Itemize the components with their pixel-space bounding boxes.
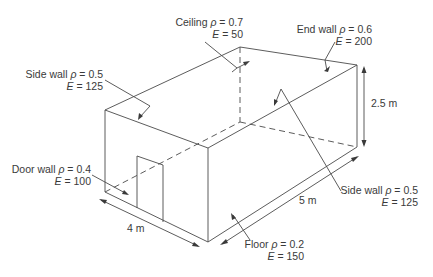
side-wall-right-name: Side wall: [340, 184, 382, 196]
floor-name: Floor: [245, 238, 269, 250]
room-diagram: Ceiling ρ = 0.7 E = 50 End wall ρ = 0.6 …: [0, 0, 433, 277]
e-symbol: E: [267, 250, 274, 262]
side-wall-right-label: Side wall ρ = 0.5 E = 125: [340, 184, 418, 208]
end-wall-e: 200: [354, 35, 372, 47]
e-symbol: E: [381, 196, 388, 208]
side-wall-left-name: Side wall: [25, 68, 67, 80]
e-symbol: E: [66, 80, 73, 92]
rho-symbol: ρ: [70, 68, 76, 80]
ceiling-label: Ceiling ρ = 0.7 E = 50: [140, 16, 243, 40]
side-wall-right-e: 125: [400, 196, 418, 208]
door-wall-rho: 0.4: [76, 163, 91, 175]
end-wall-label: End wall ρ = 0.6 E = 200: [290, 23, 372, 47]
ceiling-name: Ceiling: [175, 16, 207, 28]
ceiling-e: 50: [231, 28, 243, 40]
floor-label: Floor ρ = 0.2 E = 150: [240, 238, 304, 262]
height-dimension-label: 2.5 m: [371, 97, 397, 109]
rho-symbol: ρ: [58, 163, 64, 175]
end-wall-rho: 0.6: [357, 23, 372, 35]
rho-symbol: ρ: [271, 238, 277, 250]
side-wall-left-rho: 0.5: [88, 68, 103, 80]
e-symbol: E: [54, 175, 61, 187]
door-wall-label: Door wall ρ = 0.4 E = 100: [8, 163, 91, 187]
end-wall-name: End wall: [297, 23, 337, 35]
door-wall-e: 100: [73, 175, 91, 187]
floor-e: 150: [286, 250, 304, 262]
e-symbol: E: [212, 28, 219, 40]
floor-rho: 0.2: [289, 238, 304, 250]
length-dimension-label: 5 m: [299, 194, 317, 206]
width-dimension-label: 4 m: [127, 222, 145, 234]
side-wall-left-label: Side wall ρ = 0.5 E = 125: [20, 68, 103, 92]
side-wall-left-e: 125: [85, 80, 103, 92]
rho-symbol: ρ: [385, 184, 391, 196]
rho-symbol: ρ: [210, 16, 216, 28]
ceiling-rho: 0.7: [228, 16, 243, 28]
e-symbol: E: [335, 35, 342, 47]
door-wall-name: Door wall: [12, 163, 56, 175]
rho-symbol: ρ: [339, 23, 345, 35]
side-wall-right-rho: 0.5: [403, 184, 418, 196]
